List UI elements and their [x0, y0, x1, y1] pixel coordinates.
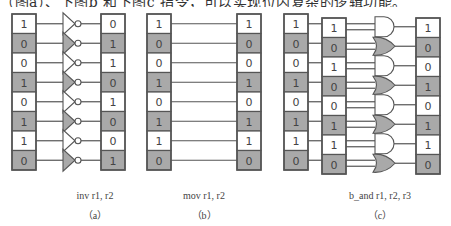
panel-b-result-bit: 0	[246, 155, 253, 168]
inverter-bubble-icon	[75, 118, 81, 124]
panel-c-source1-bit: 1	[293, 116, 300, 129]
inverter-bubble-icon	[75, 60, 81, 66]
panel-a-source-bit: 1	[21, 116, 28, 129]
not-gate-icon	[63, 71, 75, 93]
panel-a-result-bit: 1	[110, 155, 117, 168]
panel-a-source-bit: 1	[21, 135, 28, 148]
panel-c-source2-bit: 0	[331, 100, 338, 113]
panel-b-source-bit: 1	[156, 77, 163, 90]
panel-a-result-bit: 1	[110, 57, 117, 70]
panel-c-source1-bit: 0	[293, 96, 300, 109]
not-gate-icon	[63, 13, 75, 35]
panel-c-source1-bit: 1	[293, 135, 300, 148]
panel-b-result-bit: 1	[246, 116, 253, 129]
panel-c-result-bit: 1	[425, 120, 432, 133]
panel-c-source2-bit: 1	[331, 139, 338, 152]
and-gate-icon	[375, 134, 394, 154]
not-gate-icon	[63, 52, 75, 74]
panel-c-source1-bit: 0	[293, 155, 300, 168]
panel-b-result-bit: 0	[246, 96, 253, 109]
panel-c-result-bit: 0	[425, 61, 432, 74]
inverter-bubble-icon	[75, 40, 81, 46]
panel-b-source-bit: 0	[156, 155, 163, 168]
not-gate-icon	[63, 110, 75, 132]
caption-c-label: （c）	[320, 207, 440, 222]
not-gate-icon	[63, 32, 75, 54]
panel-b-source-bit: 0	[156, 57, 163, 70]
panel-a-source-bit: 1	[21, 18, 28, 31]
panel-b-result-bit: 0	[246, 38, 253, 51]
panel-c-source2-bit: 1	[331, 61, 338, 74]
inverter-bubble-icon	[75, 79, 81, 85]
panel-b-result-bit: 0	[246, 57, 253, 70]
inverter-bubble-icon	[75, 157, 81, 163]
panel-b-result-bit: 1	[246, 18, 253, 31]
panel-a-result-bit: 0	[110, 77, 117, 90]
or-gate-icon	[373, 37, 395, 55]
panel-c-source2-bit: 0	[331, 42, 338, 55]
panel-c-result-bit: 0	[425, 42, 432, 55]
panel-a-source-bit: 0	[21, 57, 28, 70]
panel-c-source1-bit: 0	[293, 38, 300, 51]
inverter-bubble-icon	[75, 99, 81, 105]
panel-c-result-bit: 0	[425, 159, 432, 172]
caption-b-label: （b）	[144, 207, 264, 222]
and-gate-icon	[375, 95, 394, 115]
not-gate-icon	[63, 149, 75, 171]
panel-a-result-bit: 1	[110, 96, 117, 109]
caption-a-instruction: inv r1, r2	[35, 190, 155, 201]
panel-c-source2-bit: 1	[331, 120, 338, 133]
and-gate-icon	[375, 56, 394, 76]
panel-a-result-bit: 0	[110, 18, 117, 31]
panel-c-result-bit: 1	[425, 81, 432, 94]
inverter-bubble-icon	[75, 21, 81, 27]
panel-c-source2-bit: 1	[331, 22, 338, 35]
caption-c-instruction: b_and r1, r2, r3	[320, 190, 440, 201]
not-gate-icon	[63, 91, 75, 113]
panel-b-source-bit: 0	[156, 38, 163, 51]
panel-c-result-bit: 1	[425, 139, 432, 152]
panel-a-source-bit: 0	[21, 96, 28, 109]
not-gate-icon	[63, 130, 75, 152]
or-gate-icon	[373, 76, 395, 94]
inverter-bubble-icon	[75, 138, 81, 144]
panel-b-source-bit: 1	[156, 135, 163, 148]
panel-b-result-bit: 1	[246, 77, 253, 90]
caption-b-instruction: mov r1, r2	[144, 190, 264, 201]
panel-c-source1-bit: 1	[293, 77, 300, 90]
panel-a-source-bit: 0	[21, 155, 28, 168]
panel-a-result-bit: 0	[110, 135, 117, 148]
panel-c-source2-bit: 0	[331, 159, 338, 172]
panel-a-source-bit: 1	[21, 77, 28, 90]
panel-a-result-bit: 1	[110, 38, 117, 51]
panel-b-result-bit: 1	[246, 135, 253, 148]
panel-c-source1-bit: 0	[293, 57, 300, 70]
panel-b-source-bit: 1	[156, 18, 163, 31]
panel-a-source-bit: 0	[21, 38, 28, 51]
panel-b-source-bit: 0	[156, 96, 163, 109]
panel-a-result-bit: 0	[110, 116, 117, 129]
panel-c-source2-bit: 0	[331, 81, 338, 94]
panel-c-source1-bit: 1	[293, 18, 300, 31]
caption-a-label: （a）	[35, 207, 155, 222]
panel-b-source-bit: 1	[156, 116, 163, 129]
and-gate-icon	[375, 17, 394, 37]
panel-c-result-bit: 0	[425, 100, 432, 113]
or-gate-icon	[373, 115, 395, 133]
or-gate-icon	[373, 154, 395, 172]
panel-c-result-bit: 1	[425, 22, 432, 35]
